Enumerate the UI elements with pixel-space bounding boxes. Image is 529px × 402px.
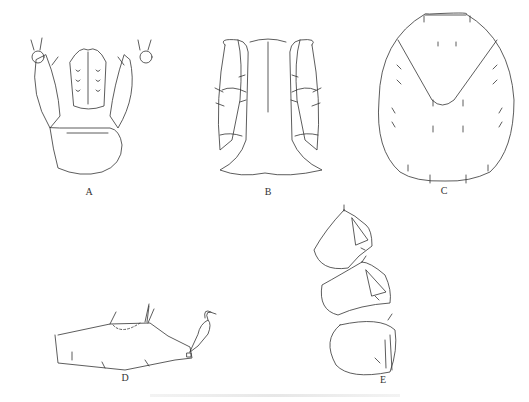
- panel-label-d: D: [121, 372, 128, 383]
- panel-e-drawing: [314, 205, 396, 375]
- panel-c-drawing: [378, 13, 514, 183]
- panel-d-drawing: [55, 304, 216, 370]
- panel-label-c: C: [441, 185, 448, 196]
- panel-label-a: A: [85, 186, 92, 197]
- panel-label-e: E: [380, 374, 386, 385]
- panel-a-drawing: [31, 38, 152, 174]
- figure-caption: [150, 394, 400, 397]
- panel-label-b: B: [265, 186, 272, 197]
- panel-b-drawing: [215, 39, 322, 175]
- figure-drawing: [0, 0, 529, 402]
